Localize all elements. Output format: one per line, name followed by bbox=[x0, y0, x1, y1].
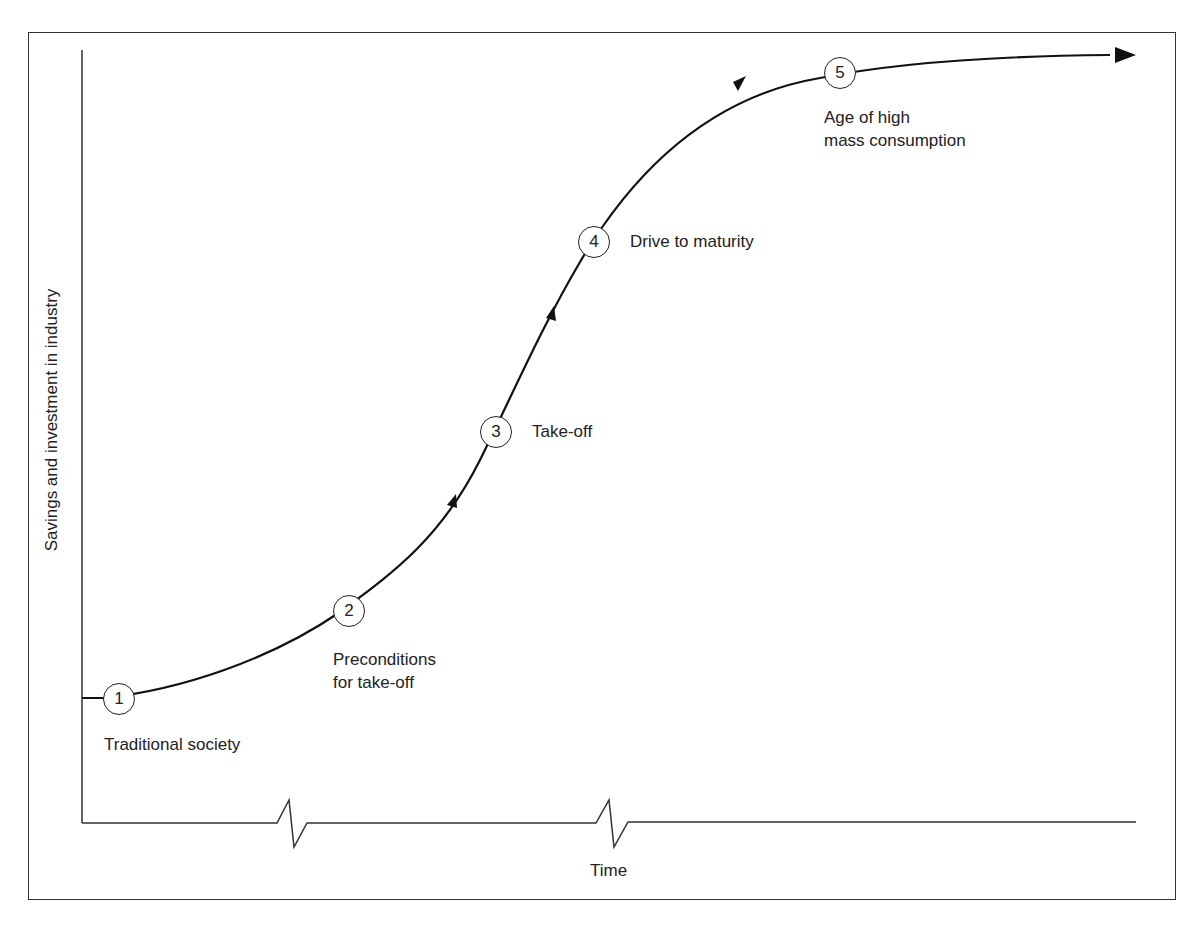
diagram-canvas bbox=[0, 0, 1197, 929]
x-axis bbox=[82, 800, 1136, 847]
x-axis-label: Time bbox=[590, 861, 627, 881]
stage-5-marker: 5 bbox=[824, 57, 856, 89]
arrowhead-end-icon bbox=[1115, 47, 1136, 63]
stage-1-label: Traditional society bbox=[104, 733, 240, 756]
y-axis-label: Savings and investment in industry bbox=[42, 289, 62, 552]
stage-2-marker: 2 bbox=[333, 595, 365, 627]
stage-4-marker: 4 bbox=[578, 226, 610, 258]
arrow-icon-4-5 bbox=[733, 76, 746, 91]
stage-1-marker: 1 bbox=[103, 683, 135, 715]
stage-4-label: Drive to maturity bbox=[630, 230, 754, 253]
stage-5-label-line2: mass consumption bbox=[824, 129, 966, 152]
stage-2-label-line2: for take-off bbox=[333, 671, 414, 694]
stage-3-label: Take-off bbox=[532, 420, 592, 443]
stage-5-label-line1: Age of high bbox=[824, 106, 910, 129]
stage-2-label-line1: Preconditions bbox=[333, 648, 436, 671]
stage-3-marker: 3 bbox=[480, 416, 512, 448]
arrow-icon-2-3 bbox=[447, 494, 457, 508]
